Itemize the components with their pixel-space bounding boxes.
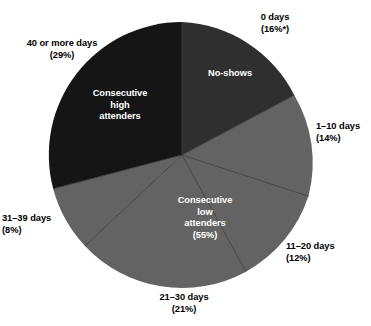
slice-label-thirtyone-to-thirtynine-days-name: 31–39 days [2, 213, 80, 225]
slice-label-twentyone-to-thirty-days-name: 21–30 days [136, 292, 232, 304]
slice-label-eleven-to-twenty-days-name: 11–20 days [286, 241, 368, 253]
group-label-low-attenders-percent: (55%) [162, 230, 248, 242]
group-label-high-attenders: Consecutive high attenders [76, 88, 164, 123]
slice-label-eleven-to-twenty-days-percent: (12%) [286, 253, 368, 265]
slice-label-one-to-ten-days-percent: (14%) [316, 133, 371, 145]
group-label-high-attenders-line3: attenders [76, 111, 164, 123]
group-label-low-attenders: Consecutive low attenders (55%) [162, 195, 248, 241]
slice-label-zero-days-name: 0 days [232, 12, 318, 24]
slice-label-zero-days: 0 days (16%*) [232, 12, 318, 35]
group-label-low-attenders-line1: Consecutive [162, 195, 248, 207]
slice-label-one-to-ten-days: 1–10 days (14%) [316, 121, 371, 144]
group-label-high-attenders-line2: high [76, 100, 164, 112]
group-label-high-attenders-line1: Consecutive [76, 88, 164, 100]
slice-label-thirtyone-to-thirtynine-days: 31–39 days (8%) [2, 213, 80, 236]
group-label-low-attenders-line2: low [162, 207, 248, 219]
slice-label-one-to-ten-days-name: 1–10 days [316, 121, 371, 133]
slice-label-forty-or-more-days-name: 40 or more days [4, 38, 120, 50]
slice-label-zero-days-percent: (16%*) [232, 24, 318, 36]
slice-label-eleven-to-twenty-days: 11–20 days (12%) [286, 241, 368, 264]
slice-label-twentyone-to-thirty-days-percent: (21%) [136, 304, 232, 316]
slice-label-twentyone-to-thirty-days: 21–30 days (21%) [136, 292, 232, 315]
group-label-no-shows: No-shows [194, 68, 266, 80]
group-label-low-attenders-line3: attenders [162, 218, 248, 230]
group-label-no-shows-line1: No-shows [194, 68, 266, 80]
slice-label-forty-or-more-days-percent: (29%) [4, 50, 120, 62]
slice-label-thirtyone-to-thirtynine-days-percent: (8%) [2, 225, 80, 237]
slice-label-forty-or-more-days: 40 or more days (29%) [4, 38, 120, 61]
pie-chart: 0 days (16%*) 40 or more days (29%) 1–10… [0, 0, 371, 326]
